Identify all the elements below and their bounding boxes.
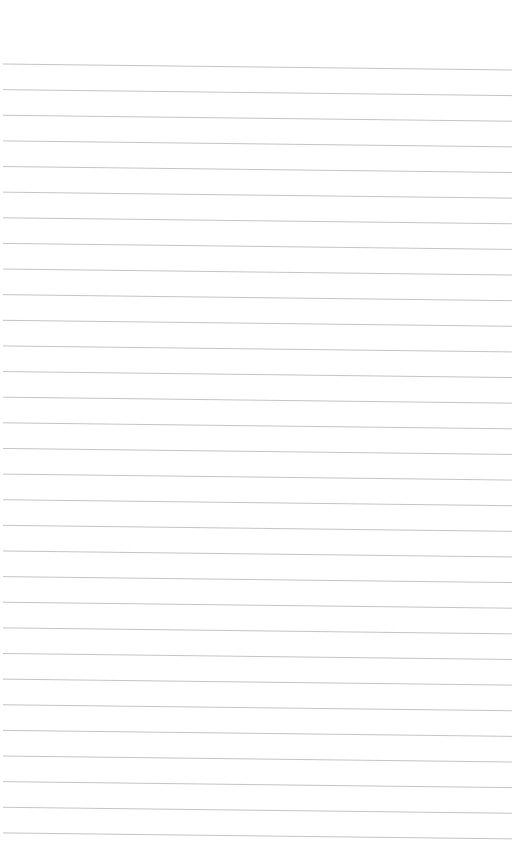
ruled-line (3, 269, 512, 275)
ruled-line (3, 141, 512, 147)
ruled-line (3, 295, 512, 301)
ruled-line (3, 653, 512, 659)
ruled-line (3, 705, 512, 711)
ruled-line (3, 346, 512, 352)
ruled-paper-page (0, 0, 515, 865)
ruled-line (3, 372, 512, 378)
ruled-line (3, 320, 512, 326)
ruled-line (3, 243, 512, 249)
ruled-line (3, 602, 512, 608)
ruled-line (3, 551, 512, 557)
ruled-lines (0, 0, 515, 865)
ruled-line (3, 628, 512, 634)
ruled-line (3, 167, 512, 173)
ruled-line (3, 756, 512, 762)
ruled-line (3, 90, 512, 96)
ruled-line (3, 192, 512, 198)
ruled-line (3, 782, 512, 788)
ruled-line (3, 423, 512, 429)
ruled-line (3, 730, 512, 736)
ruled-line (3, 500, 512, 506)
ruled-line (3, 64, 512, 70)
ruled-line (3, 397, 512, 403)
ruled-line (3, 474, 512, 480)
ruled-line (3, 115, 512, 121)
ruled-line (3, 448, 512, 454)
ruled-line (3, 679, 512, 685)
ruled-line (3, 525, 512, 531)
ruled-line (3, 833, 512, 839)
ruled-line (3, 807, 512, 813)
ruled-line (3, 218, 512, 224)
ruled-line (3, 577, 512, 583)
